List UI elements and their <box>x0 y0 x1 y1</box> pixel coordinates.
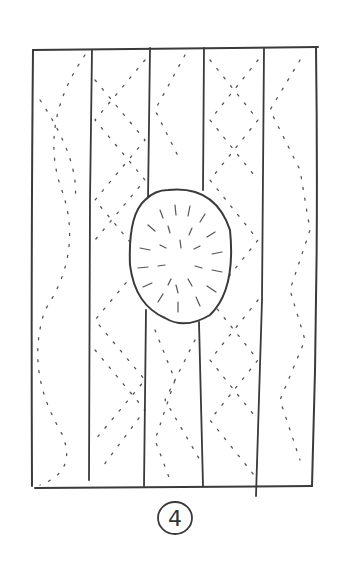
sketch-figure <box>0 0 341 562</box>
figure-number: 4 <box>168 506 182 531</box>
central-oval <box>130 190 231 324</box>
figure-number-label: 4 <box>155 498 195 538</box>
